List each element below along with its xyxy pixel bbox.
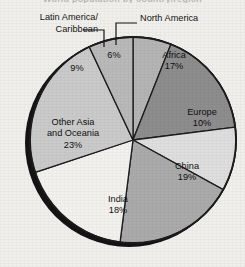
pie-value-china-text: 19% [163, 172, 211, 183]
pie-label-latin-america-line1: Latin America/ [40, 12, 98, 22]
pie-label-other-asia-and-oceania: Other Asia and Oceania 23% [31, 117, 115, 151]
pie-label-europe-text: Europe [187, 107, 217, 117]
pie-label-other-asia-line2: and Oceania [47, 128, 99, 138]
pie-value-north-america: 6% [103, 50, 125, 61]
pie-value-india-text: 18% [96, 205, 140, 216]
pie-value-latin-america-text: 9% [66, 63, 88, 74]
pie-label-china: China 19% [163, 161, 211, 184]
pie-label-africa-text: Africa [162, 50, 186, 60]
pie-value-north-america-text: 6% [103, 50, 125, 61]
pie-label-other-asia-line1: Other Asia [52, 117, 95, 127]
pie-value-europe-text: 10% [176, 118, 228, 129]
pie-label-europe: Europe 10% [176, 107, 228, 130]
pie-label-latin-america-caribbean: Latin America/ Caribbean [2, 12, 98, 35]
pie-chart-figure: World population by country/region [0, 0, 245, 267]
pie-label-north-america: North America [140, 13, 198, 25]
pie-label-latin-america-line2: Caribbean [56, 24, 98, 34]
pie-value-africa-text: 17% [150, 61, 198, 72]
pie-label-india-text: India [108, 194, 128, 204]
pie-label-india: India 18% [96, 194, 140, 217]
pie-label-north-america-text: North America [140, 13, 198, 23]
pie-value-latin-america-caribbean: 9% [66, 63, 88, 74]
pie-value-other-asia-text: 23% [31, 140, 115, 151]
pie-label-africa: Africa 17% [150, 50, 198, 73]
pie-label-china-text: China [175, 161, 199, 171]
